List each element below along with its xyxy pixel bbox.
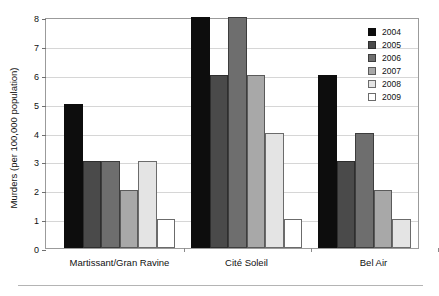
bar-2004-1 (191, 17, 210, 248)
y-tick-mark (42, 106, 46, 107)
y-tick-mark (42, 250, 46, 251)
bar-2008-2 (392, 219, 411, 248)
y-axis-title: Murders (per 100,000 population) (8, 33, 19, 243)
bar-2005-2 (337, 161, 356, 248)
bar-2008-0 (138, 161, 157, 248)
bar-2006-0 (101, 161, 120, 248)
y-tick-mark (42, 163, 46, 164)
legend-item-2005[interactable]: 2005 (368, 39, 401, 50)
bar-chart-figure: Murders (per 100,000 population) 0123456… (0, 0, 439, 296)
legend-label: 2006 (382, 53, 401, 63)
x-category-label: Bel Air (360, 257, 387, 268)
y-tick-mark (42, 221, 46, 222)
y-tick-mark (42, 77, 46, 78)
bar-2009-1 (284, 219, 303, 248)
figure-bottom-rule (18, 285, 423, 286)
x-tick-mark (184, 248, 185, 252)
y-tick-label: 1 (34, 216, 39, 226)
y-tick-mark (42, 135, 46, 136)
y-tick-label: 3 (34, 158, 39, 168)
y-tick-mark (42, 192, 46, 193)
bar-2007-0 (120, 190, 139, 248)
x-category-label: Cité Soleil (225, 257, 268, 268)
legend-item-2007[interactable]: 2007 (368, 65, 401, 76)
legend-label: 2004 (382, 27, 401, 37)
y-tick-label: 6 (34, 72, 39, 82)
x-category-label: Martissant/Gran Ravine (70, 257, 170, 268)
x-tick-mark (311, 248, 312, 252)
legend-swatch-icon (368, 54, 376, 62)
y-tick-label: 5 (34, 101, 39, 111)
bar-2004-0 (64, 104, 83, 248)
bar-2007-1 (247, 75, 266, 248)
bar-2009-0 (157, 219, 176, 248)
legend-item-2008[interactable]: 2008 (368, 78, 401, 89)
legend-item-2006[interactable]: 2006 (368, 52, 401, 63)
bar-2006-2 (355, 133, 374, 249)
legend-label: 2005 (382, 40, 401, 50)
legend-swatch-icon (368, 93, 376, 101)
plot-area: 012345678 Martissant/Gran RavineCité Sol… (45, 18, 419, 249)
y-tick-label: 4 (34, 130, 39, 140)
y-tick-label: 2 (34, 187, 39, 197)
bar-2006-1 (228, 17, 247, 248)
legend-swatch-icon (368, 67, 376, 75)
legend-label: 2007 (382, 66, 401, 76)
bar-2005-1 (210, 75, 229, 248)
y-tick-label: 8 (34, 14, 39, 24)
bar-2005-0 (83, 161, 102, 248)
bar-2007-2 (374, 190, 393, 248)
y-tick-label: 0 (34, 245, 39, 255)
legend-item-2004[interactable]: 2004 (368, 26, 401, 37)
chart-legend: 200420052006200720082009 (368, 26, 401, 102)
legend-item-2009[interactable]: 2009 (368, 91, 401, 102)
bar-2008-1 (265, 133, 284, 249)
bar-2004-2 (318, 75, 337, 248)
y-tick-mark (42, 48, 46, 49)
legend-swatch-icon (368, 41, 376, 49)
legend-swatch-icon (368, 28, 376, 36)
clipped-top-text (0, 0, 439, 7)
legend-label: 2008 (382, 79, 401, 89)
y-tick-label: 7 (34, 43, 39, 53)
y-tick-mark (42, 19, 46, 20)
legend-swatch-icon (368, 80, 376, 88)
legend-label: 2009 (382, 92, 401, 102)
